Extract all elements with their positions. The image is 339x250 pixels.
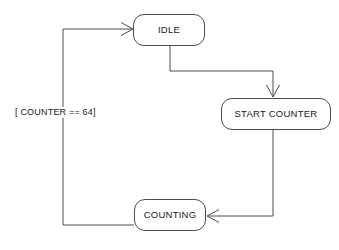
state-label-idle: IDLE — [158, 25, 180, 35]
state-label-start-counter: START COUNTER — [235, 109, 318, 119]
state-diagram: IDLE START COUNTER COUNTING [ COUNTER ==… — [0, 0, 339, 250]
state-node-counting[interactable]: COUNTING — [134, 199, 206, 231]
state-node-idle[interactable]: IDLE — [133, 14, 205, 46]
state-node-start-counter[interactable]: START COUNTER — [221, 98, 331, 130]
edge-counting-to-idle-line — [63, 29, 134, 225]
state-label-counting: COUNTING — [144, 210, 197, 220]
edge-idle-to-start-counter-line — [170, 46, 273, 97]
edge-start-counter-to-counting-line — [208, 130, 273, 216]
edge-guard-label-counting-to-idle: [ COUNTER == 64] — [12, 107, 99, 118]
